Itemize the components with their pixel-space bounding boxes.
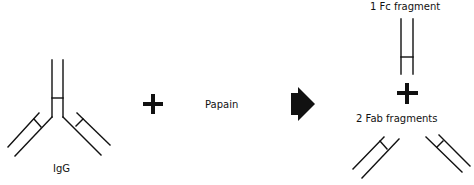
fc-fragment <box>401 19 413 74</box>
igg-label: IgG <box>53 163 70 174</box>
papain-digestion-diagram: IgG Papain 1 Fc fragment 2 Fab fragments <box>0 0 474 185</box>
papain-label: Papain <box>205 99 238 110</box>
fab-fragment-left <box>353 137 399 178</box>
plus-sign-1 <box>143 94 163 114</box>
reaction-arrow-icon <box>291 87 315 121</box>
fab-fragment-right <box>426 135 470 172</box>
fc-fragment-label: 1 Fc fragment <box>370 1 440 12</box>
plus-sign-2 <box>397 83 418 104</box>
diagram-canvas <box>0 0 474 185</box>
igg-molecule <box>8 60 110 156</box>
fab-fragments-label: 2 Fab fragments <box>356 113 438 124</box>
